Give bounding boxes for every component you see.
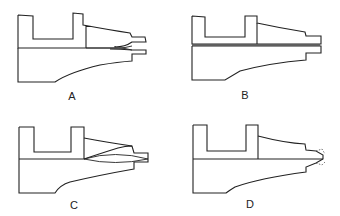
panel-label-b: B bbox=[235, 89, 255, 101]
panel-d-drawing bbox=[193, 125, 325, 193]
panel-b-drawing bbox=[192, 16, 321, 80]
panel-a-drawing bbox=[18, 13, 146, 82]
nozzle-diagram bbox=[0, 0, 340, 216]
panel-label-d: D bbox=[240, 198, 260, 210]
panel-label-c: C bbox=[64, 199, 84, 211]
panel-label-a: A bbox=[62, 90, 82, 102]
panel-c-drawing bbox=[19, 127, 148, 193]
